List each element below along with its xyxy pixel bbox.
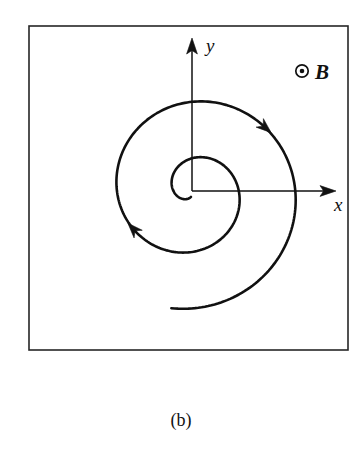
magnetic-field-dot-icon [300, 69, 305, 74]
spiral-trajectory-diagram: y x B [0, 0, 362, 453]
y-axis-label: y [204, 35, 215, 56]
magnetic-field-label: B [314, 60, 329, 84]
figure-caption: (b) [0, 410, 362, 431]
x-axis-label: x [333, 194, 343, 215]
figure-frame [29, 26, 348, 350]
figure-container: y x B (b) [0, 0, 362, 453]
